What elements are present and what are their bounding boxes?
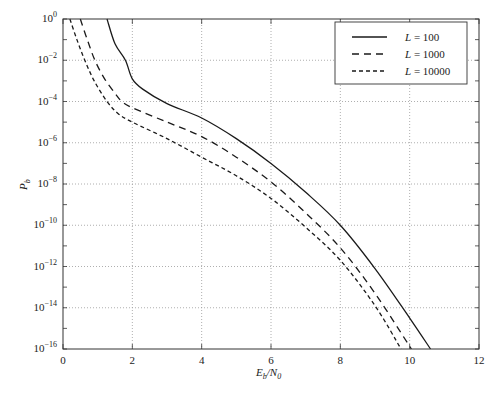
- y-tick-label: 10−10: [33, 216, 57, 230]
- x-tick-label: 2: [130, 354, 136, 366]
- x-tick-label: 0: [60, 354, 66, 366]
- x-tick-label: 4: [199, 354, 205, 366]
- y-tick-label: 10−14: [33, 299, 57, 313]
- chart: 024681012 10010−210−410−610−810−1010−121…: [0, 0, 498, 393]
- legend-label: L = 100: [404, 31, 440, 43]
- y-tick-label: 100: [42, 10, 57, 24]
- legend-label: L = 10000: [404, 65, 451, 77]
- x-tick-label: 10: [404, 354, 416, 366]
- y-tick-label: 10−4: [37, 93, 57, 107]
- y-axis-label: Pb: [17, 179, 32, 191]
- x-tick-label: 12: [474, 354, 485, 366]
- y-tick-label: 10−2: [37, 51, 57, 65]
- legend: L = 100L = 1000L = 10000: [335, 22, 467, 84]
- y-tick-labels: 10010−210−410−610−810−1010−1210−1410−16: [33, 10, 57, 354]
- legend-label: L = 1000: [404, 48, 445, 60]
- y-tick-label: 10−6: [37, 134, 57, 148]
- x-tick-labels: 024681012: [60, 354, 484, 366]
- x-tick-label: 8: [338, 354, 344, 366]
- y-tick-label: 10−8: [37, 175, 57, 189]
- y-tick-label: 10−16: [33, 340, 57, 354]
- x-axis-label: Eb/N0: [255, 366, 281, 381]
- y-tick-label: 10−12: [33, 258, 57, 272]
- x-tick-label: 6: [268, 354, 274, 366]
